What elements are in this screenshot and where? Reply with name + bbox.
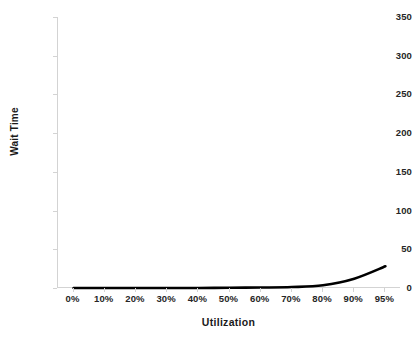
- x-tick-mark: [384, 288, 385, 292]
- x-tick-mark: [135, 288, 136, 292]
- x-tick-mark: [229, 288, 230, 292]
- x-tick-mark: [353, 288, 354, 292]
- x-tick-mark: [73, 288, 74, 292]
- y-tick-mark: [53, 288, 57, 289]
- x-axis-title: Utilization: [57, 316, 400, 328]
- series-wait-time: [58, 17, 401, 288]
- x-tick-mark: [104, 288, 105, 292]
- series-line-wait-time: [74, 266, 386, 288]
- x-tick-mark: [291, 288, 292, 292]
- plot-area: [57, 17, 400, 288]
- x-tick-mark: [322, 288, 323, 292]
- x-tick-label: 95%: [364, 293, 404, 304]
- chart-container: Wait Time 050100150200250300350 0%10%20%…: [0, 0, 412, 341]
- x-tick-mark: [166, 288, 167, 292]
- y-axis-title: Wait Time: [9, 100, 20, 164]
- x-tick-mark: [260, 288, 261, 292]
- x-tick-mark: [197, 288, 198, 292]
